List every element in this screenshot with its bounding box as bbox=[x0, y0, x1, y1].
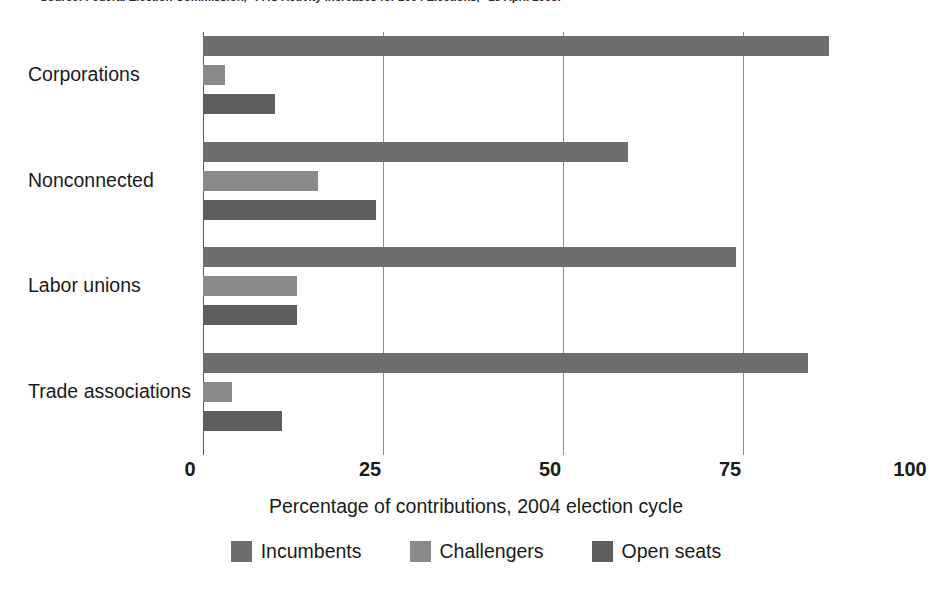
x-tick-label: 100 bbox=[893, 458, 926, 481]
bar-group bbox=[203, 247, 923, 325]
x-axis-tick-labels: 0255075100 bbox=[0, 458, 952, 488]
bar-chart: CorporationsNonconnectedLabor unionsTrad… bbox=[0, 0, 952, 590]
legend-label: Challengers bbox=[440, 540, 544, 563]
category-axis-labels: CorporationsNonconnectedLabor unionsTrad… bbox=[28, 32, 198, 455]
bar bbox=[203, 94, 275, 114]
x-tick-label: 0 bbox=[184, 458, 195, 481]
x-axis-title: Percentage of contributions, 2004 electi… bbox=[0, 495, 952, 518]
bar bbox=[203, 142, 628, 162]
category-label: Trade associations bbox=[28, 382, 191, 402]
bar bbox=[203, 65, 225, 85]
bar-group bbox=[203, 353, 923, 431]
x-tick-label: 75 bbox=[719, 458, 741, 481]
category-label: Corporations bbox=[28, 65, 140, 85]
bar-group bbox=[203, 36, 923, 114]
bar bbox=[203, 36, 829, 56]
chart-legend: IncumbentsChallengersOpen seats bbox=[0, 540, 952, 563]
legend-swatch-challengers bbox=[410, 541, 431, 562]
x-tick-label: 50 bbox=[539, 458, 561, 481]
legend-swatch-open-seats bbox=[592, 541, 613, 562]
legend-item: Incumbents bbox=[231, 540, 362, 563]
category-label: Nonconnected bbox=[28, 171, 154, 191]
legend-label: Open seats bbox=[622, 540, 722, 563]
legend-item: Challengers bbox=[410, 540, 544, 563]
bar bbox=[203, 200, 376, 220]
legend-swatch-incumbents bbox=[231, 541, 252, 562]
bar bbox=[203, 382, 232, 402]
legend-item: Open seats bbox=[592, 540, 722, 563]
x-tick-label: 25 bbox=[359, 458, 381, 481]
bar-group bbox=[203, 142, 923, 220]
legend-label: Incumbents bbox=[261, 540, 362, 563]
plot-area bbox=[203, 32, 923, 455]
bar bbox=[203, 305, 297, 325]
bar bbox=[203, 353, 808, 373]
bar bbox=[203, 171, 318, 191]
category-label: Labor unions bbox=[28, 276, 141, 296]
bar bbox=[203, 247, 736, 267]
bar bbox=[203, 411, 282, 431]
bar bbox=[203, 276, 297, 296]
